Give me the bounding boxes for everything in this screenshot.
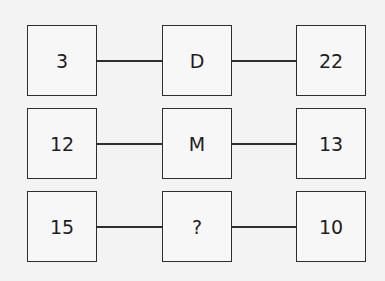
number-letter-puzzle-diagram: 3 D 22 12 M 13 15 ? 10 (0, 0, 385, 281)
row-2-middle-value: M (189, 133, 205, 155)
row-1-connector-right (232, 60, 296, 62)
row-1-connector-left (97, 60, 162, 62)
row-1-right-box: 22 (296, 25, 366, 96)
row-2-middle-box: M (162, 108, 232, 179)
row-3-left-value: 15 (50, 216, 74, 238)
row-3-middle-value: ? (192, 216, 202, 238)
row-1-left-box: 3 (27, 25, 97, 96)
row-1-left-value: 3 (56, 50, 68, 72)
row-3-connector-left (97, 226, 162, 228)
row-3-middle-box: ? (162, 191, 232, 262)
row-2-connector-right (232, 143, 296, 145)
row-2-connector-left (97, 143, 162, 145)
row-2-left-box: 12 (27, 108, 97, 179)
row-3-right-value: 10 (319, 216, 343, 238)
row-3-right-box: 10 (296, 191, 366, 262)
row-3-left-box: 15 (27, 191, 97, 262)
row-3-connector-right (232, 226, 296, 228)
row-2-right-value: 13 (319, 133, 343, 155)
row-1-right-value: 22 (319, 50, 343, 72)
row-2-left-value: 12 (50, 133, 74, 155)
row-2-right-box: 13 (296, 108, 366, 179)
row-1-middle-value: D (190, 50, 205, 72)
row-1-middle-box: D (162, 25, 232, 96)
